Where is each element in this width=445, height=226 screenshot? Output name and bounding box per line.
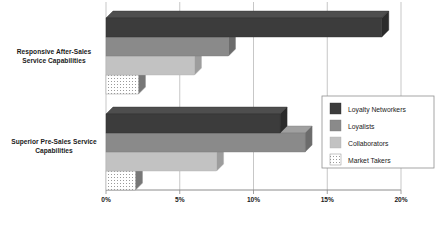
legend-swatch-loyalty-networkers [330, 103, 341, 114]
x-tick-label-15: 15% [312, 196, 342, 203]
legend-swatch-loyalists [330, 120, 341, 131]
bar-chart: Responsive After-Sales Service Capabilit… [0, 0, 445, 226]
x-axis-ticks [106, 190, 401, 194]
category-label-pre-sales: Superior Pre-Sales Service Capabilities [4, 137, 104, 155]
category-label-after-sales-line2: Service Capabilities [6, 56, 102, 65]
category-label-pre-sales-line1: Superior Pre-Sales Service [4, 137, 104, 146]
category-label-after-sales: Responsive After-Sales Service Capabilit… [6, 47, 102, 65]
category-label-after-sales-line1: Responsive After-Sales [6, 47, 102, 56]
legend-label-collaborators: Collaborators [348, 139, 388, 148]
legend-label-market-takers: Market Takers [348, 156, 391, 165]
bar-after-sales-loyalty-networkers [106, 11, 389, 37]
x-tick-label-10: 10% [239, 196, 269, 203]
x-tick-label-0: 0% [91, 196, 121, 203]
legend-swatch-collaborators [330, 137, 341, 148]
x-tick-label-5: 5% [165, 196, 195, 203]
legend-label-loyalists: Loyalists [348, 122, 374, 131]
legend-label-loyalty-networkers: Loyalty Networkers [348, 105, 406, 114]
category-label-pre-sales-line2: Capabilities [4, 146, 104, 155]
bar-pre-sales-loyalty-networkers [106, 107, 287, 133]
x-tick-label-20: 20% [386, 196, 416, 203]
legend-swatch-market-takers [330, 154, 341, 165]
